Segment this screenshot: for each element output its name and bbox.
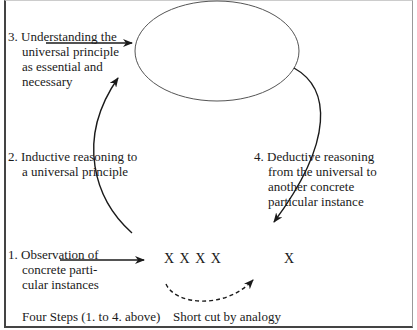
new-instance: X [284,251,295,267]
step3-line4: necessary [8,74,119,89]
footer-short-cut: Short cut by analogy [173,309,281,324]
step1-line2: concrete parti- [8,262,99,277]
step3-line1: 3. Understanding the [8,29,117,44]
footer-four-steps: Four Steps (1. to 4. above) [22,309,160,324]
step4-line1: 4. Deductive reasoning [254,149,374,164]
arrow-analogy [166,280,253,301]
step3-line3: as essential and [8,59,119,74]
step4-line2: from the universal to [254,164,377,179]
step1-line1: 1. Observation of [8,247,99,262]
step3-label: 3. Understanding the universal principle… [8,29,119,89]
step3-line2: universal principle [8,44,119,59]
step2-line2: a universal principle [8,164,137,179]
universal-principle-ellipse [135,1,299,101]
observed-instances: X X X X [164,251,222,267]
step1-line3: cular instances [8,277,99,292]
step1-label: 1. Observation of concrete parti- cular … [8,247,99,292]
step2-line1: 2. Inductive reasoning to [8,149,137,164]
step2-label: 2. Inductive reasoning to a universal pr… [8,149,137,179]
step4-line4: particular instance [254,194,377,209]
step4-line3: another concrete [254,179,377,194]
step4-label: 4. Deductive reasoning from the universa… [254,149,377,209]
